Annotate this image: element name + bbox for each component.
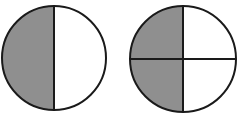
fraction-diagram [0, 0, 238, 116]
halves-circle [2, 6, 106, 110]
quarters-circle [130, 6, 236, 112]
shaded-half [2, 6, 54, 110]
